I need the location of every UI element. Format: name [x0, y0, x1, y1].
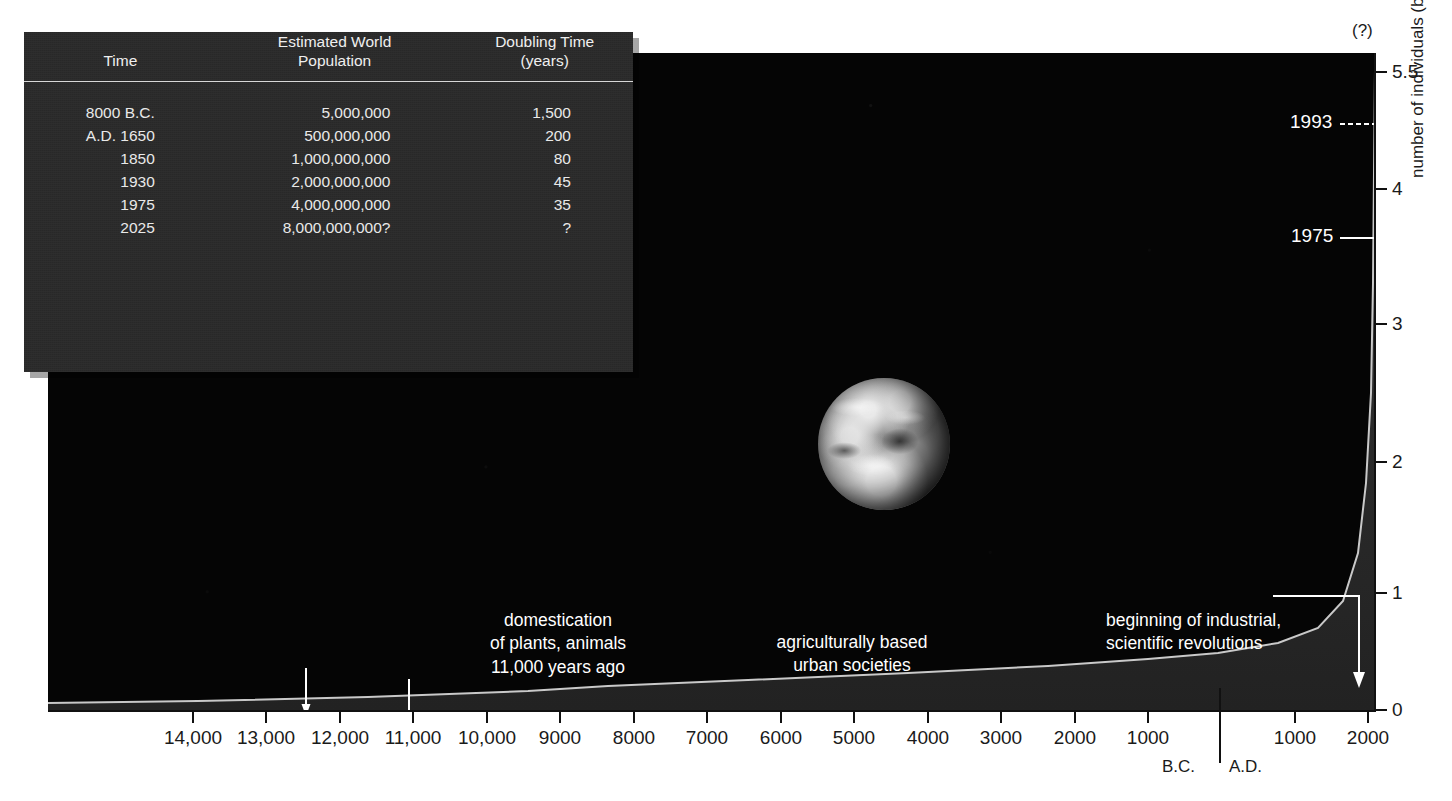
annotation-domestication-arrow	[300, 668, 312, 710]
table-body: 8000 B.C. 5,000,000 1,500 A.D. 1650 500,…	[24, 81, 633, 239]
x-tick-label: 8000	[613, 727, 655, 749]
x-tick-mark	[1074, 712, 1076, 723]
y-axis-line	[1374, 53, 1376, 712]
cell-doubling: 35	[456, 193, 633, 216]
table-row: A.D. 1650 500,000,000 200	[24, 124, 633, 147]
cell-population: 4,000,000,000	[213, 193, 457, 216]
cell-time: 8000 B.C.	[24, 81, 213, 124]
y-tick-label: 3	[1392, 313, 1403, 335]
column-header-population-line1: Estimated World	[213, 32, 457, 51]
x-tick-mark	[633, 712, 635, 723]
cell-doubling: 80	[456, 147, 633, 170]
cell-population: 5,000,000	[213, 81, 457, 124]
table-row: 1975 4,000,000,000 35	[24, 193, 633, 216]
x-tick-label: 11,000	[385, 727, 442, 749]
x-tick-mark	[1294, 712, 1296, 723]
cell-time: 1930	[24, 170, 213, 193]
cell-doubling: 45	[456, 170, 633, 193]
y-tick-label: 0	[1392, 699, 1403, 721]
x-tick-label: 5000	[833, 727, 875, 749]
y-tick-label: 2	[1392, 451, 1403, 473]
column-header-doubling-line1: Doubling Time	[456, 32, 633, 51]
x-axis-line	[48, 710, 1376, 712]
era-divider	[1219, 688, 1221, 763]
callout-1993-label: 1993	[1290, 111, 1332, 133]
y-tick-mark	[1376, 709, 1387, 711]
x-tick-mark	[486, 712, 488, 723]
y-tick-label: 5.5	[1392, 61, 1418, 83]
era-label-bc: B.C.	[1162, 757, 1195, 777]
x-tick-label: 6000	[760, 727, 802, 749]
y-tick-mark	[1376, 71, 1387, 73]
x-tick-label: 1000	[1274, 727, 1316, 749]
annotation-domestication-line1: domestication	[438, 609, 678, 632]
x-tick-mark	[853, 712, 855, 723]
x-tick-mark	[559, 712, 561, 723]
x-tick-label: 14,000	[164, 727, 222, 749]
annotation-urban-line1: agriculturally based	[742, 631, 962, 654]
column-header-population: Estimated World Population	[213, 32, 457, 81]
cell-doubling: ?	[456, 216, 633, 239]
x-tick-label: 2000	[1347, 727, 1389, 749]
y-tick-mark	[1376, 323, 1387, 325]
x-tick-mark	[706, 712, 708, 723]
annotation-urban-arrow	[403, 679, 415, 710]
y-tick-label: 1	[1392, 582, 1403, 604]
x-tick-label: 4000	[907, 727, 949, 749]
y-tick-mark	[1376, 461, 1387, 463]
y-axis-top-note: (?)	[1352, 21, 1373, 41]
cell-population: 2,000,000,000	[213, 170, 457, 193]
cell-time: A.D. 1650	[24, 124, 213, 147]
x-tick-mark	[1000, 712, 1002, 723]
cell-doubling: 1,500	[456, 81, 633, 124]
annotation-domestication-line3: 11,000 years ago	[438, 656, 678, 679]
cell-population: 500,000,000	[213, 124, 457, 147]
cell-time: 2025	[24, 216, 213, 239]
x-tick-mark	[265, 712, 267, 723]
cell-population: 8,000,000,000?	[213, 216, 457, 239]
earth-globe-icon	[818, 378, 950, 510]
column-header-doubling-line2: (years)	[456, 51, 633, 70]
callout-1975-label: 1975	[1291, 225, 1333, 247]
y-tick-mark	[1376, 592, 1387, 594]
cell-population: 1,000,000,000	[213, 147, 457, 170]
table-row: 1930 2,000,000,000 45	[24, 170, 633, 193]
column-header-time: Time	[24, 32, 213, 81]
y-tick-mark	[1376, 188, 1387, 190]
y-tick-label: 4	[1392, 178, 1403, 200]
x-tick-mark	[780, 712, 782, 723]
table-row: 8000 B.C. 5,000,000 1,500	[24, 81, 633, 124]
x-tick-mark	[1367, 712, 1369, 723]
x-tick-label: 10,000	[458, 727, 516, 749]
column-header-doubling-time: Doubling Time (years)	[456, 32, 633, 81]
callout-1993-arrow	[1340, 115, 1375, 133]
x-tick-mark	[1147, 712, 1149, 723]
annotation-industrial-arrow	[1273, 578, 1375, 688]
annotation-urban-line2: urban societies	[742, 654, 962, 677]
x-tick-label: 13,000	[237, 727, 295, 749]
x-tick-label: 12,000	[311, 727, 369, 749]
era-label-ad: A.D.	[1229, 757, 1262, 777]
cell-time: 1975	[24, 193, 213, 216]
x-tick-label: 9000	[539, 727, 581, 749]
annotation-domestication-line2: of plants, animals	[438, 632, 678, 655]
y-axis-title: number of individuals (billions)	[1408, 0, 1428, 178]
column-header-population-line2: Population	[213, 51, 457, 70]
x-tick-mark	[927, 712, 929, 723]
callout-1975-arrow	[1340, 229, 1375, 247]
x-tick-label: 1000	[1127, 727, 1169, 749]
cell-doubling: 200	[456, 124, 633, 147]
annotation-domestication: domestication of plants, animals 11,000 …	[438, 609, 678, 679]
table-header: Time Estimated World Population Doubling…	[24, 32, 633, 81]
x-tick-label: 7000	[686, 727, 728, 749]
table-header-row: Time Estimated World Population Doubling…	[24, 32, 633, 81]
x-tick-label: 3000	[980, 727, 1022, 749]
table-row: 1850 1,000,000,000 80	[24, 147, 633, 170]
x-tick-mark	[339, 712, 341, 723]
table-row: 2025 8,000,000,000? ?	[24, 216, 633, 239]
x-tick-label: 2000	[1054, 727, 1096, 749]
population-data-table: Time Estimated World Population Doubling…	[24, 32, 633, 239]
x-tick-mark	[192, 712, 194, 723]
x-tick-mark	[412, 712, 414, 723]
population-data-table-panel: Time Estimated World Population Doubling…	[24, 32, 633, 372]
